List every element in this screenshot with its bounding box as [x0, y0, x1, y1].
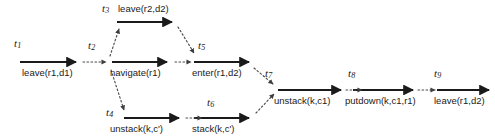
edge-t2-t3	[110, 29, 119, 56]
node-label-t6: t6	[207, 97, 214, 109]
action-label-t1: leave(r1,d1)	[22, 68, 73, 78]
action-label-t9: leave(r1,d2)	[434, 96, 485, 106]
node-label-t7: t7	[265, 68, 272, 80]
node-label-t3: t3	[102, 3, 109, 15]
action-label-t2: navigate(r1)	[110, 68, 161, 78]
node-label-t8: t8	[348, 68, 355, 80]
action-label-t6: stack(k,c')	[192, 124, 234, 134]
action-label-t3: leave(r2,d2)	[118, 4, 169, 14]
graph-edges	[0, 0, 495, 138]
action-label-t4: unstack(k,c')	[110, 124, 163, 134]
node-label-t4: t4	[106, 107, 113, 119]
node-label-t5: t5	[198, 40, 205, 52]
action-label-t8: putdown(k,c1,r1)	[345, 96, 416, 106]
diagram-canvas: t1 t2 t3 t4 t5 t6 t7 t8 t9 leave(r1,d1) …	[0, 0, 495, 138]
edge-t3-t5	[178, 27, 194, 53]
node-label-t9: t9	[434, 68, 441, 80]
action-label-t7: unstack(k,c1)	[274, 96, 331, 106]
edge-t6-t7	[256, 94, 274, 113]
node-label-t2: t2	[88, 40, 95, 52]
action-label-t5: enter(r1,d2)	[192, 68, 242, 78]
node-label-t1: t1	[14, 38, 21, 50]
